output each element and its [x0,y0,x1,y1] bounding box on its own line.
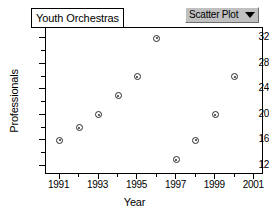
data-point[interactable] [76,124,83,131]
data-point[interactable] [115,92,122,99]
data-point[interactable] [173,156,180,163]
x-minor-tick [195,174,196,177]
x-tick-label: 1993 [78,180,118,190]
y-tick [39,88,45,89]
data-point[interactable] [134,73,141,80]
clipped-toolbar-strip [0,0,269,6]
x-axis-title: Year [0,196,269,208]
y-tick-label: 28 [235,58,269,68]
x-minor-tick [117,174,118,177]
x-minor-tick [234,174,235,177]
y-tick-label: 12 [235,160,269,170]
y-axis-title: Professionals [8,61,20,141]
plot-type-value: Scatter Plot [189,10,243,20]
plot-frame [45,27,263,174]
y-tick [39,63,45,64]
x-tick-label: 1997 [155,180,195,190]
scatter-plot-window: Youth Orchestras Scatter Plot 1216202428… [0,0,269,216]
chart-title-box[interactable]: Youth Orchestras [31,8,124,28]
data-point[interactable] [153,35,160,42]
x-tick-label: 2001 [233,180,269,190]
data-point[interactable] [192,137,199,144]
x-tick-label: 1995 [116,180,156,190]
y-minor-tick [41,127,45,128]
plot-area[interactable] [46,28,262,173]
y-tick [39,37,45,38]
chart-title-label: Youth Orchestras [36,13,119,24]
y-tick-label: 20 [235,109,269,119]
y-minor-tick [41,76,45,77]
x-minor-tick [78,174,79,177]
y-tick-label: 16 [235,134,269,144]
y-tick [39,165,45,166]
y-minor-tick [41,152,45,153]
x-tick-label: 1991 [39,180,79,190]
data-point[interactable] [95,111,102,118]
y-tick [39,114,45,115]
y-tick-label: 24 [235,83,269,93]
y-tick-label: 32 [235,32,269,42]
x-tick-label: 1999 [194,180,234,190]
data-point[interactable] [231,73,238,80]
data-point[interactable] [56,137,63,144]
plot-type-dropdown[interactable]: Scatter Plot [185,7,259,23]
data-point[interactable] [212,111,219,118]
y-minor-tick [41,101,45,102]
y-tick [39,139,45,140]
chevron-down-icon [245,12,255,18]
x-minor-tick [156,174,157,177]
y-minor-tick [41,50,45,51]
